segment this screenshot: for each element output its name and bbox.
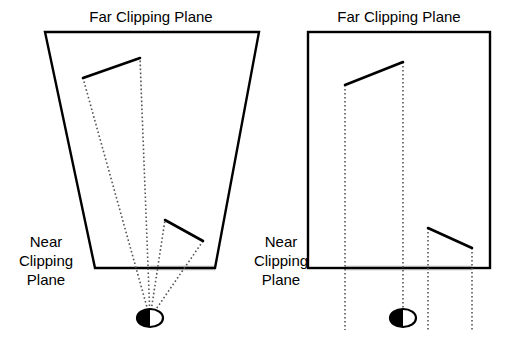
sight-ray-2 (140, 58, 150, 318)
near-clipping-plane-label-right-line1: Near (265, 233, 298, 250)
lower-object-segment-right (428, 228, 472, 248)
view-box-outline (308, 32, 490, 268)
near-clipping-plane-label-left-line1: Near (30, 233, 63, 250)
near-clipping-plane-label-right-line2: Clipping (254, 252, 308, 269)
figure-canvas: Far Clipping Plane Near Clippi (0, 0, 511, 346)
upper-object-segment-right (345, 62, 403, 85)
view-frustum-outline (45, 32, 259, 268)
lower-object-segment-left (165, 220, 203, 241)
far-clipping-plane-label-left: Far Clipping Plane (89, 8, 212, 25)
near-clipping-plane-label-left-line3: Plane (27, 271, 65, 288)
near-clipping-plane-label-right-line3: Plane (262, 271, 300, 288)
eye-icon-right (390, 309, 416, 327)
far-clipping-plane-label-right: Far Clipping Plane (337, 8, 460, 25)
orthographic-panel: Far Clipping Plane Near Clippi (254, 8, 490, 330)
sight-ray-4 (150, 241, 203, 318)
clipping-plane-diagram: Far Clipping Plane Near Clippi (0, 0, 511, 346)
perspective-panel: Far Clipping Plane Near Clippi (19, 8, 259, 327)
sight-rays-left (83, 58, 203, 318)
projection-rays-right (345, 62, 472, 330)
sight-ray-1 (83, 78, 150, 318)
eye-icon-left (137, 309, 163, 327)
near-clipping-plane-label-left-line2: Clipping (19, 252, 73, 269)
upper-object-segment-left (83, 58, 140, 78)
